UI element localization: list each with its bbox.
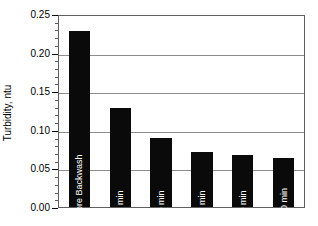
bar-label: 120 min xyxy=(275,188,284,220)
bar: Filter 3 before Backwash xyxy=(69,31,90,207)
bar-label: 45 min xyxy=(193,190,202,217)
bar-series: Filter 3 before Backwash15 min30 min45 m… xyxy=(59,16,304,207)
bar: 120 min xyxy=(273,158,294,207)
bar-label: 15 min xyxy=(111,190,120,217)
y-axis-tick-label: 0.05 xyxy=(16,164,50,174)
bar-label-text: 60 min xyxy=(238,190,247,217)
plot-area: Filter 3 before Backwash15 min30 min45 m… xyxy=(58,15,305,208)
bar: 60 min xyxy=(232,155,253,207)
bar-label: 60 min xyxy=(234,190,243,217)
bar-label: 30 min xyxy=(152,190,161,217)
bar: 15 min xyxy=(110,108,131,207)
bar-label-text: 30 min xyxy=(157,190,166,217)
bar-label-text: Filter 3 before Backwash xyxy=(75,154,84,226)
y-axis-tick-labels: 0.000.050.100.150.200.25 xyxy=(16,0,50,226)
y-axis-tick-label: 0.15 xyxy=(16,87,50,97)
y-axis-tick-label: 0.20 xyxy=(16,49,50,59)
y-axis-major-tick xyxy=(52,208,58,209)
bar-label-text: 15 min xyxy=(116,190,125,217)
bar-label-text: 120 min xyxy=(279,188,288,220)
turbidity-bar-chart: Turbidity, ntu 0.000.050.100.150.200.25 … xyxy=(0,0,318,226)
y-axis-tick-label: 0.00 xyxy=(16,203,50,213)
bar-label-text: 45 min xyxy=(197,190,206,217)
y-axis-tick-label: 0.25 xyxy=(16,10,50,20)
bar-label: Filter 3 before Backwash xyxy=(70,154,79,226)
bar: 30 min xyxy=(150,138,171,207)
y-axis-tick-label: 0.10 xyxy=(16,126,50,136)
bar: 45 min xyxy=(191,152,212,207)
y-axis-title: Turbidity, ntu xyxy=(0,0,14,226)
